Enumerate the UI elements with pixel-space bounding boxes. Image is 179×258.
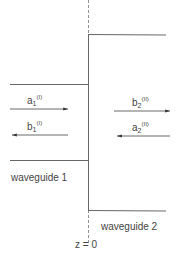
label-a1: a1(I) [27,94,42,107]
waveguide2-bottom-wall [88,211,166,212]
label-a2: a2(II) [132,121,149,134]
label-b2: b2(II) [132,96,149,109]
waveguide2-top-wall [88,35,166,36]
interface-label: z = 0 [75,240,97,250]
waveguide2-label: waveguide 2 [101,222,157,232]
waveguide1-label: waveguide 1 [11,173,67,183]
label-b1: b1(I) [27,120,42,133]
